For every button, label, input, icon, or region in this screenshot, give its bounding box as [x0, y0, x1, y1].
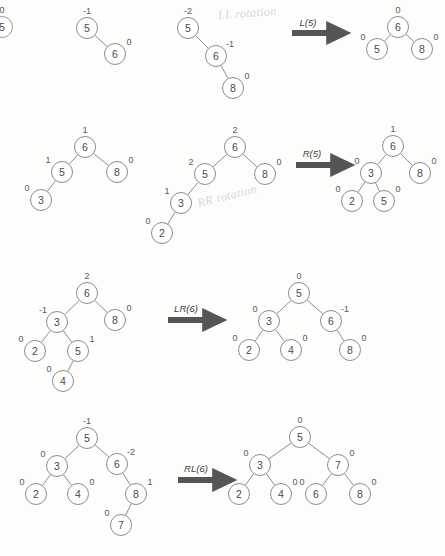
balance-factor-label: 0 [371, 477, 376, 487]
balance-factor-label: 1 [45, 155, 50, 165]
tree-node: 4 [52, 370, 74, 392]
tree-node: 7 [110, 514, 132, 536]
balance-factor-label: 0 [126, 303, 131, 313]
tree-node: 5 [67, 340, 89, 362]
balance-factor-label: 0 [128, 155, 133, 165]
tree-node: 6 [382, 135, 404, 157]
balance-factor-label: 2 [232, 125, 237, 135]
balance-factor-label: -1 [83, 416, 91, 426]
balance-factor-label: 0 [89, 477, 94, 487]
tree-node: 8 [411, 38, 433, 60]
tree-node: 5 [194, 163, 216, 185]
balance-factor-label: 1 [82, 125, 87, 135]
tree-node: 7 [327, 454, 349, 476]
balance-factor-label: 0 [46, 364, 51, 374]
balance-factor-label: 0 [395, 184, 400, 194]
balance-factor-label: 0 [0, 5, 5, 15]
tree-node: 3 [360, 162, 382, 184]
tree-node: 8 [254, 163, 276, 185]
balance-factor-label: 0 [297, 415, 302, 425]
tree-node: 6 [74, 136, 96, 158]
balance-factor-label: 2 [84, 271, 89, 281]
balance-factor-label: 2 [188, 157, 193, 167]
balance-factor-label: -2 [127, 447, 135, 457]
tree-node: 2 [341, 190, 363, 212]
tree-node: 2 [228, 483, 250, 505]
tree-node: 5 [366, 38, 388, 60]
tree-node: 3 [30, 189, 52, 211]
tree-node: 5 [76, 427, 98, 449]
balance-factor-label: 0 [360, 32, 365, 42]
balance-factor-label: -1 [341, 304, 349, 314]
balance-factor-label: 0 [349, 448, 354, 458]
balance-factor-label: 0 [18, 334, 23, 344]
balance-factor-label: 0 [296, 271, 301, 281]
tree-node: 8 [104, 309, 126, 331]
tree-node: 6 [205, 45, 227, 67]
tree-node: 8 [349, 483, 371, 505]
balance-factor-label: 1 [89, 334, 94, 344]
balance-factor-label: 1 [147, 477, 152, 487]
tree-node: 6 [104, 43, 126, 65]
tree-node: 6 [387, 16, 409, 38]
balance-factor-label: 0 [276, 157, 281, 167]
balance-factor-label: -1 [39, 305, 47, 315]
rotation-operation-label: R(5) [303, 148, 321, 159]
balance-factor-label: 0 [40, 449, 45, 459]
balance-factor-label: 0 [19, 477, 24, 487]
tree-node: 5 [288, 282, 310, 304]
balance-factor-label: 0 [431, 156, 436, 166]
tree-node: 6 [305, 483, 327, 505]
tree-node-layer: 505-1605-26-1806050806151803062528031206… [0, 0, 445, 556]
handwritten-annotation: LL rotation [217, 4, 277, 23]
tree-node: 6 [106, 453, 128, 475]
rotation-operation-label: RL(6) [184, 463, 208, 474]
balance-factor-label: 0 [433, 32, 438, 42]
balance-factor-label: 0 [243, 448, 248, 458]
tree-node: 2 [24, 340, 46, 362]
balance-factor-label: -1 [83, 6, 91, 16]
balance-factor-label: -2 [184, 6, 192, 16]
balance-factor-label: 0 [126, 37, 131, 47]
diagram-canvas: 505-1605-26-1806050806151803062528031206… [0, 0, 445, 556]
tree-node: 3 [249, 454, 271, 476]
tree-node: 3 [258, 310, 280, 332]
balance-factor-label: 0 [244, 71, 249, 81]
balance-factor-label: 0 [252, 304, 257, 314]
balance-factor-label: 0 [395, 5, 400, 15]
tree-node: 8 [106, 161, 128, 183]
rotation-operation-label: LR(6) [174, 303, 198, 314]
tree-node: 4 [270, 483, 292, 505]
balance-factor-label: 1 [390, 124, 395, 134]
balance-factor-label: 0 [302, 333, 307, 343]
tree-node: 3 [46, 311, 68, 333]
balance-factor-label: 0 [292, 477, 297, 487]
balance-factor-label: 0 [361, 333, 366, 343]
tree-node: 5 [289, 426, 311, 448]
balance-factor-label: 0 [24, 183, 29, 193]
tree-node: 8 [409, 162, 431, 184]
tree-node: 8 [125, 483, 147, 505]
tree-node: 5 [177, 17, 199, 39]
balance-factor-label: 0 [222, 477, 227, 487]
tree-node: 3 [46, 455, 68, 477]
tree-node: 2 [238, 339, 260, 361]
tree-node: 5 [0, 16, 13, 38]
balance-factor-label: 0 [232, 333, 237, 343]
tree-node: 2 [25, 483, 47, 505]
balance-factor-label: 0 [299, 477, 304, 487]
balance-factor-label: 1 [164, 186, 169, 196]
tree-node: 5 [76, 17, 98, 39]
rotation-operation-label: L(5) [300, 17, 317, 28]
balance-factor-label: -1 [226, 39, 234, 49]
tree-node: 4 [280, 339, 302, 361]
balance-factor-label: 0 [145, 216, 150, 226]
tree-node: 6 [320, 310, 342, 332]
tree-node: 4 [67, 483, 89, 505]
balance-factor-label: 0 [335, 184, 340, 194]
tree-node: 3 [170, 192, 192, 214]
tree-node: 8 [339, 339, 361, 361]
tree-node: 2 [151, 222, 173, 244]
handwritten-annotation: RR rotation [196, 182, 258, 211]
tree-node: 6 [224, 136, 246, 158]
